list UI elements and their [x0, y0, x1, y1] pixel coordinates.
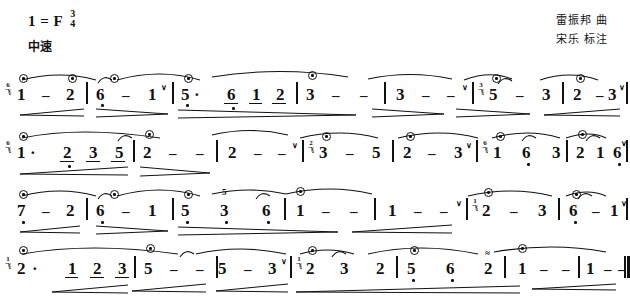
staff-line-1: 6飞 1 – 2 6 – 1 ∨ 5 · 6 1 2 3 – – 3 – – ∨	[0, 62, 630, 120]
harmonic-icon	[518, 244, 527, 253]
dynamic-hairpins	[0, 280, 630, 294]
note: 2	[66, 86, 75, 103]
tempo-marking: 中速	[28, 37, 52, 54]
sustain-dash: –	[196, 146, 204, 161]
barline	[86, 198, 88, 220]
harmonic-icon	[484, 188, 493, 197]
note: 1	[518, 260, 527, 277]
dynamic-hairpins	[0, 222, 630, 236]
score-sheet: 1 = F34 中速 雷振邦 曲 宋乐 标注	[0, 0, 630, 303]
staff-line-3: 7 – 2 6 – 1 5 5 3 6 1 – – 1 – – ∨ 1飞 2 –…	[0, 178, 630, 236]
final-barline-thick	[627, 256, 630, 278]
barline	[396, 256, 398, 278]
note: 1	[68, 260, 77, 277]
harmonic-icon	[308, 71, 317, 80]
note: 2	[143, 144, 152, 161]
barline	[558, 198, 560, 220]
note: 2	[376, 260, 385, 277]
harmonic-icon	[410, 246, 419, 255]
beam	[65, 277, 78, 278]
note: 6	[96, 202, 105, 219]
barline	[626, 82, 628, 104]
sustain-dash: –	[604, 262, 612, 277]
note: 3	[552, 144, 561, 161]
note: 3	[220, 202, 229, 219]
barline	[626, 140, 628, 162]
note: 2	[228, 144, 237, 161]
note: 3	[454, 144, 463, 161]
sustain-dash: –	[346, 146, 354, 161]
dynamic-hairpins	[0, 106, 630, 120]
note: 5	[407, 260, 416, 277]
note: 6	[96, 86, 105, 103]
note: 6	[446, 260, 455, 277]
note: 6	[569, 202, 578, 219]
harmonic-icon	[572, 190, 581, 199]
barline	[578, 256, 580, 278]
barline	[504, 256, 506, 278]
barline	[374, 198, 376, 220]
harmonic-icon	[19, 132, 28, 141]
harmonic-icon	[146, 244, 155, 253]
barline	[566, 140, 568, 162]
note: 3	[118, 260, 127, 277]
note: 1	[388, 202, 397, 219]
note: 1	[148, 86, 157, 103]
alternate-note: 5	[222, 188, 227, 197]
bow-up-icon: ∨	[281, 258, 287, 266]
sustain-dash: –	[414, 204, 422, 219]
sustain-dash: –	[278, 146, 286, 161]
key-label: 1 = F	[28, 13, 63, 29]
harmonic-icon	[322, 132, 331, 141]
sustain-dash: –	[196, 262, 204, 277]
note: 2	[63, 144, 72, 161]
string-marking: 2飞	[308, 140, 314, 154]
note: 3	[306, 86, 315, 103]
note: 1	[596, 144, 605, 161]
harmonic-icon	[145, 130, 154, 139]
note: 2	[576, 144, 585, 161]
note: 5	[489, 86, 498, 103]
bow-up-icon: ∨	[462, 84, 468, 92]
barline	[172, 82, 174, 104]
barline	[302, 140, 304, 162]
harmonic-icon	[68, 74, 77, 83]
note: 6	[227, 86, 236, 103]
beam	[60, 161, 74, 162]
note: 3	[319, 144, 328, 161]
note: 5	[218, 260, 227, 277]
barline	[133, 140, 135, 162]
string-marking: 1飞	[296, 256, 302, 270]
note: 3	[340, 260, 349, 277]
sustain-dash: –	[254, 146, 262, 161]
harmonic-icon	[296, 187, 305, 196]
note: 3	[396, 86, 405, 103]
note: 2	[403, 144, 412, 161]
note: 1	[17, 86, 26, 103]
sustain-dash: –	[169, 146, 177, 161]
note: 2	[484, 260, 493, 277]
beam	[111, 161, 125, 162]
harmonic-icon	[406, 132, 415, 141]
beam	[224, 103, 238, 104]
note: 2	[306, 260, 315, 277]
harmonic-icon	[19, 74, 28, 83]
key-signature: 1 = F34	[28, 10, 76, 30]
sustain-dash: –	[350, 204, 358, 219]
harmonic-icon	[184, 74, 193, 83]
note: 1	[148, 202, 157, 219]
note: 3	[268, 260, 277, 277]
time-sig-denominator: 4	[70, 19, 76, 29]
note: 1	[586, 260, 595, 277]
barline	[466, 198, 468, 220]
sustain-dash: –	[244, 262, 252, 277]
sustain-dash: –	[540, 262, 548, 277]
beam	[272, 103, 286, 104]
dynamic-hairpins	[0, 164, 630, 178]
note: 7	[17, 202, 26, 219]
barline	[296, 82, 298, 104]
sustain-dash: –	[562, 262, 570, 277]
beam	[249, 103, 262, 104]
string-marking: 3飞	[478, 82, 484, 96]
barline	[384, 82, 386, 104]
